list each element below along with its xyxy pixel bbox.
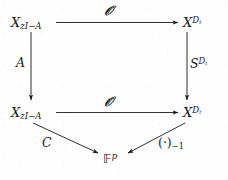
node-top-right-superscript-subscript: t (199, 19, 201, 25)
edge-label-right: SDt (190, 57, 207, 71)
script-o-icon: 𝒪 (103, 4, 112, 17)
node-top-left-base: X (11, 15, 20, 30)
node-top-left-subscript: zI−A (20, 21, 41, 31)
node-target-superscript: p (112, 151, 118, 161)
node-top-right-superscript: Dt (192, 15, 201, 25)
node-top-left: XzI−A (11, 16, 42, 31)
edge-label-diagonal-right: (·)−1 (158, 137, 184, 151)
node-bottom-left-subscript: zI−A (20, 111, 41, 121)
edge-label-bottom: 𝒪 (104, 95, 112, 109)
node-top-right: XDt (183, 16, 201, 29)
node-bottom-left: XzI−A (11, 106, 42, 121)
edge-label-right-superscript: Dt (199, 56, 208, 66)
node-bottom-right: XDt (183, 106, 201, 119)
node-target-field: 𝔽p (103, 152, 117, 165)
edge-label-right-base: S (190, 56, 199, 71)
node-bottom-left-base: X (11, 105, 20, 120)
script-o-icon: 𝒪 (103, 95, 112, 108)
edge-label-diagonal-right-base: (·) (158, 135, 172, 150)
node-bottom-right-superscript-subscript: t (199, 109, 201, 115)
node-bottom-right-superscript: Dt (192, 105, 201, 115)
edge-label-diagonal-right-subscript: −1 (172, 141, 184, 151)
edge-label-top: 𝒪 (104, 4, 112, 18)
edge-label-right-superscript-subscript: t (205, 60, 207, 66)
blackboard-f-icon: 𝔽 (103, 151, 112, 166)
node-top-right-base: X (183, 15, 192, 30)
diagram-canvas: XzI−A XDt XzI−A XDt 𝔽p 𝒪 𝒪 A SDt C (·)−1 (0, 0, 228, 180)
edge-label-left: A (16, 57, 25, 70)
edge-label-diagonal-left: C (42, 137, 52, 150)
node-bottom-right-base: X (183, 105, 192, 120)
